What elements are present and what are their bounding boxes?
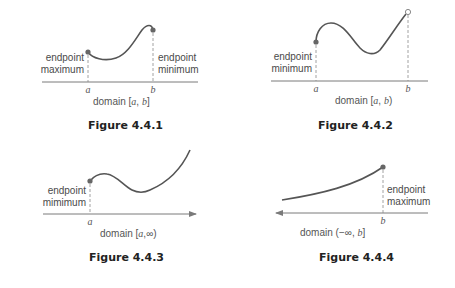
closed-endpoint-a bbox=[85, 49, 90, 54]
fig1-right-label: endpoint minimum bbox=[158, 52, 199, 76]
tick-a: a bbox=[314, 84, 319, 94]
domain-suffix: ] bbox=[362, 227, 365, 238]
fig3-domain-label: domain [a,∞) bbox=[100, 228, 157, 240]
closed-endpoint-a bbox=[313, 39, 318, 44]
fig3-left-label: endpoint mimimum bbox=[42, 185, 86, 209]
domain-prefix: domain ( bbox=[300, 227, 339, 238]
domain-suffix: ) bbox=[389, 95, 392, 106]
domain-suffix: ) bbox=[153, 228, 156, 239]
fig1-domain-label: domain [a, b] bbox=[93, 96, 150, 108]
label-line: endpoint bbox=[387, 184, 430, 196]
label-line: minimum bbox=[268, 63, 312, 75]
tick-a: a bbox=[86, 85, 91, 95]
closed-endpoint-a bbox=[87, 178, 92, 183]
domain-suffix: ] bbox=[147, 96, 150, 107]
domain-start: −∞ bbox=[339, 227, 352, 238]
label-line: minimum bbox=[158, 64, 199, 76]
closed-endpoint-b bbox=[150, 27, 155, 32]
domain-prefix: domain [ bbox=[100, 228, 138, 239]
tick-b: b bbox=[151, 85, 156, 95]
tick-a: a bbox=[88, 217, 93, 227]
label-line: maximum bbox=[387, 196, 430, 208]
open-endpoint-b bbox=[405, 9, 410, 14]
tick-b: b bbox=[406, 84, 411, 94]
function-curve bbox=[90, 150, 190, 192]
fig2-domain-label: domain [a, b) bbox=[335, 95, 392, 107]
tick-b: b bbox=[381, 216, 386, 226]
figure-caption: Figure 4.4.3 bbox=[89, 251, 164, 264]
label-line: endpoint bbox=[42, 185, 86, 197]
figure-caption: Figure 4.4.4 bbox=[319, 251, 394, 264]
domain-prefix: domain [ bbox=[335, 95, 373, 106]
function-curve bbox=[316, 14, 406, 54]
fig4-right-label: endpoint maximum bbox=[387, 184, 430, 208]
figures-canvas bbox=[0, 0, 455, 288]
function-curve bbox=[88, 26, 153, 60]
fig1-left-label: endpoint maximum bbox=[40, 52, 84, 76]
figure-caption: Figure 4.4.1 bbox=[88, 119, 163, 132]
fig2-left-label: endpoint minimum bbox=[268, 51, 312, 75]
label-line: mimimum bbox=[42, 197, 86, 209]
label-line: endpoint bbox=[268, 51, 312, 63]
domain-prefix: domain [ bbox=[93, 96, 131, 107]
label-line: endpoint bbox=[40, 52, 84, 64]
label-line: endpoint bbox=[158, 52, 199, 64]
closed-endpoint-b bbox=[380, 164, 385, 169]
label-line: maximum bbox=[40, 64, 84, 76]
figure-caption: Figure 4.4.2 bbox=[318, 119, 393, 132]
fig4-domain-label: domain (−∞, b] bbox=[300, 227, 365, 239]
function-curve bbox=[282, 167, 383, 200]
